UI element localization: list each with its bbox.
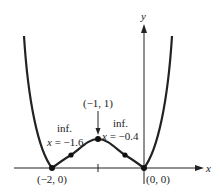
point-inflection-right — [122, 152, 127, 157]
x-axis-arrow-icon — [195, 165, 204, 171]
inflection-right-title: inf. — [113, 118, 128, 129]
inflection-right-eq: x = −0.4 — [102, 131, 139, 142]
label-origin: (0, 0) — [146, 174, 170, 185]
point-max — [95, 136, 101, 142]
inflection-left-eq: x = −1.6 — [47, 137, 84, 148]
label-max: (−1, 1) — [83, 98, 113, 109]
y-axis-arrow-icon — [141, 24, 147, 33]
inflection-right-val: = −0.4 — [107, 130, 139, 142]
x-axis-label: x — [206, 163, 211, 174]
max-pointer-arrow-icon — [96, 128, 101, 135]
inflection-left-title: inf. — [57, 123, 72, 134]
point-origin — [141, 165, 147, 171]
label-min-left: (−2, 0) — [37, 174, 67, 185]
inflection-left-val: = −1.6 — [52, 136, 84, 148]
point-min-left — [49, 165, 55, 171]
y-axis-label: y — [141, 11, 146, 22]
point-inflection-left — [68, 152, 73, 157]
